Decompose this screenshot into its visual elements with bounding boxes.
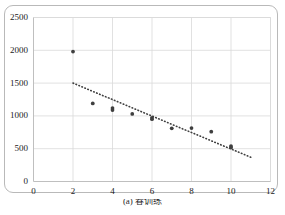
figure-caption-text: (a) 春训练 [123,199,162,206]
data-point [91,102,95,106]
x-tick-label: 2 [63,187,83,196]
scatter-plot [0,0,285,215]
y-tick-label: 0 [2,177,28,186]
x-tick-label: 8 [182,187,202,196]
data-point [209,130,213,134]
x-tick-label: 12 [261,187,281,196]
x-tick-label: 4 [103,187,123,196]
y-tick-label: 1500 [2,79,28,88]
data-point [190,126,194,130]
data-point [130,112,134,116]
trend-line [73,83,251,157]
y-tick-label: 1000 [2,111,28,120]
gridlines [34,18,271,182]
figure-caption: (a) 春训练 [0,199,285,208]
x-tick-label: 0 [24,187,44,196]
x-tick-label: 10 [221,187,241,196]
data-point [111,108,115,112]
x-tick-label: 6 [142,187,162,196]
figure-container: 05001000150020002500 024681012 (a) 春训练 [0,0,285,215]
y-tick-label: 2500 [2,13,28,22]
data-point [150,117,154,121]
data-point [170,126,174,130]
y-tick-label: 500 [2,144,28,153]
data-point [71,50,75,54]
y-tick-label: 2000 [2,46,28,55]
